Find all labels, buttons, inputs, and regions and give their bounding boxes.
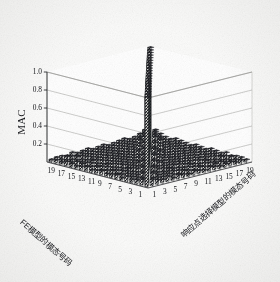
x-tick-label: 9 — [98, 179, 102, 188]
y-tick-label: 1 — [153, 190, 157, 199]
x-tick-label: 15 — [68, 172, 75, 181]
x-tick-label: 11 — [88, 177, 95, 186]
x-tick-label: 19 — [48, 166, 55, 175]
y-tick-label: 5 — [173, 185, 177, 194]
x-tick-label: 5 — [118, 185, 122, 194]
y-tick-label: 7 — [184, 182, 188, 191]
z-tick-label: 0.6 — [20, 103, 42, 112]
y-tick-label: 9 — [194, 179, 198, 188]
y-tick-label: 19 — [246, 166, 253, 175]
y-tick-label: 15 — [225, 172, 232, 181]
y-tick-label: 3 — [163, 187, 167, 196]
x-tick-label: 13 — [78, 174, 85, 183]
x-tick-label: 17 — [58, 169, 65, 178]
z-tick-label: 0.8 — [20, 85, 42, 94]
x-tick-label: 3 — [128, 187, 132, 196]
x-tick-label: 1 — [138, 190, 142, 199]
y-tick-label: 17 — [236, 169, 243, 178]
x-tick-label: 7 — [108, 182, 112, 191]
mac-3d-bar-figure: MAC FE模型的模态号码 响应点选择模型的模态号码 1.00.80.60.40… — [0, 0, 280, 282]
z-tick-label: 0.2 — [20, 139, 42, 148]
y-tick-label: 11 — [205, 177, 212, 186]
y-tick-label: 13 — [215, 174, 222, 183]
z-tick-label: 0.4 — [20, 121, 42, 130]
z-axis — [44, 72, 47, 162]
z-tick-label: 1.0 — [20, 67, 42, 76]
